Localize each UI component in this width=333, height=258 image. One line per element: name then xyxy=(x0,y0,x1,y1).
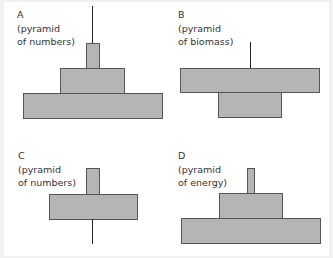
panel-d-level-1 xyxy=(181,218,321,244)
panel-b-letter: B xyxy=(178,8,185,21)
panel-a-caption-line2: of numbers) xyxy=(17,35,75,48)
panel-a-caption-line1: (pyramid xyxy=(17,22,60,35)
panel-b-caption-line1: (pyramid xyxy=(178,22,221,35)
panel-b-top-line xyxy=(250,42,251,69)
panel-d-caption-line2: of energy) xyxy=(178,176,227,189)
panel-d-level-3 xyxy=(247,168,255,194)
panel-a-letter: A xyxy=(17,8,24,21)
panel-d-caption-line1: (pyramid xyxy=(178,163,221,176)
panel-b-level-2 xyxy=(180,68,320,93)
panel-c-caption-line1: (pyramid xyxy=(18,163,61,176)
panel-a-top-line xyxy=(92,6,93,44)
panel-c-level-2 xyxy=(49,194,138,220)
panel-a-level-3 xyxy=(86,43,100,69)
panel-c-letter: C xyxy=(18,149,25,162)
panel-c-level-3 xyxy=(86,168,100,195)
panel-c-caption-line2: of numbers) xyxy=(18,176,76,189)
panel-c-bottom-line xyxy=(92,219,93,244)
panel-b-caption-line2: of biomass) xyxy=(178,35,233,48)
panel-d-letter: D xyxy=(178,149,185,162)
panel-d-level-2 xyxy=(219,193,283,219)
panel-a-level-2 xyxy=(60,68,125,94)
panel-b-level-1 xyxy=(218,92,282,118)
panel-a-level-1 xyxy=(23,93,163,119)
